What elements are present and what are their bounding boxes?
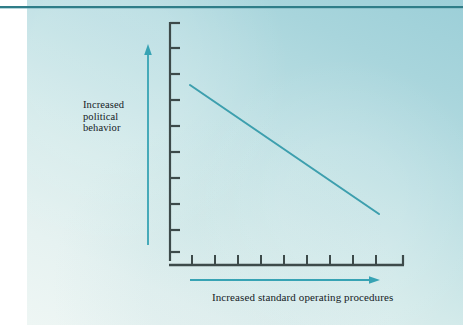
plot-area [0,0,463,325]
y-axis-ticks [170,48,180,252]
figure-container: Increased political behavior Increased s… [0,0,463,325]
x-axis-ticks [192,255,376,265]
x-direction-arrow [190,276,380,284]
x-axis-label: Increased standard operating procedures [212,292,393,304]
y-axis-label: Increased political behavior [83,99,124,134]
y-direction-arrow [144,44,152,245]
trend-line [190,85,379,214]
